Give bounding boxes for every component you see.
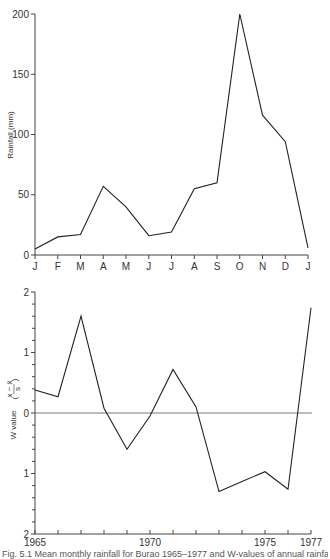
y-tick-label: 0 [23, 408, 29, 419]
x-tick-label: J [146, 261, 151, 272]
x-ticks: 1965197019751977 [24, 530, 323, 548]
y-tick-label: 50 [18, 189, 30, 200]
y-tick-label: 150 [12, 69, 29, 80]
x-tick-label: 1970 [139, 537, 162, 548]
w-value-label: W value [9, 410, 18, 439]
y-axis-title: W value ( x − x̄ s ) [5, 378, 22, 439]
x-tick-label: M [76, 261, 84, 272]
formula-denominator: s [13, 387, 22, 391]
x-tick-label: 1975 [254, 537, 277, 548]
x-tick-label: F [55, 261, 61, 272]
y-axis-title: Rainfall (mm) [6, 111, 15, 159]
x-tick-label: 1965 [24, 537, 47, 548]
y-ticks: 050100150200 [12, 9, 35, 261]
y-tick-label: 1 [23, 468, 29, 479]
x-ticks: JFMAMJJASONDJ [33, 255, 311, 272]
x-tick-label: N [259, 261, 266, 272]
x-tick-label: D [282, 261, 289, 272]
rainfall-chart: 050100150200 JFMAMJJASONDJ Rainfall (mm) [6, 9, 311, 273]
x-tick-label: M [122, 261, 130, 272]
x-tick-label: S [214, 261, 221, 272]
figure-caption: Fig. 5.1 Mean monthly rainfall for Burao… [2, 549, 328, 559]
w-value-chart: 21012 1965197019751977 W value ( x − x̄ … [5, 287, 323, 549]
rainfall-line [35, 14, 308, 249]
paren-right: ) [10, 378, 19, 381]
x-tick-label: 1977 [300, 537, 323, 548]
x-tick-label: A [100, 261, 107, 272]
x-tick-label: J [169, 261, 174, 272]
x-tick-label: A [191, 261, 198, 272]
y-tick-label: 0 [23, 250, 29, 261]
x-tick-label: J [306, 261, 311, 272]
y-tick-label: 2 [23, 287, 29, 298]
x-tick-label: J [33, 261, 38, 272]
w-value-line [35, 308, 311, 492]
x-tick-label: O [236, 261, 244, 272]
y-tick-label: 200 [12, 9, 29, 20]
y-tick-label: 1 [23, 347, 29, 358]
y-ticks: 21012 [23, 287, 35, 540]
